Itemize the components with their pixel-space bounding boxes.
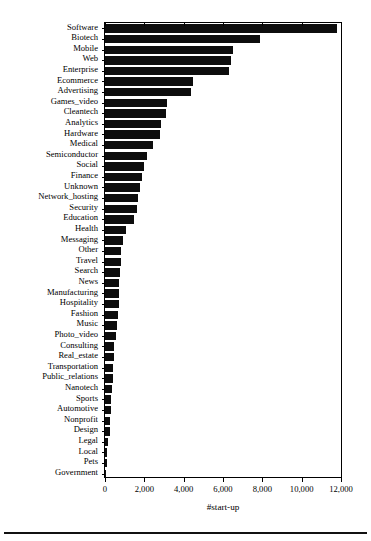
- bar-row: [105, 55, 341, 66]
- bar: [105, 35, 260, 43]
- bar-chart-figure: SoftwareBiotechMobileWebEnterpriseEcomme…: [0, 0, 371, 541]
- bar-row: [105, 171, 341, 182]
- bar-row: [105, 214, 341, 225]
- y-axis-label: Local: [0, 447, 98, 456]
- bar-row: [105, 150, 341, 161]
- y-axis-label: Nanotech: [0, 383, 98, 392]
- bar: [105, 321, 117, 329]
- y-axis-tick: [102, 399, 105, 400]
- y-axis-tick: [102, 442, 105, 443]
- bar-row: [105, 362, 341, 373]
- y-axis-label: Medical: [0, 139, 98, 148]
- y-axis-label: Pets: [0, 457, 98, 466]
- bar: [105, 183, 140, 191]
- bar: [105, 247, 121, 255]
- y-axis-tick: [102, 145, 105, 146]
- y-axis-label: Nonprofit: [0, 415, 98, 424]
- y-axis-label: Semiconductor: [0, 150, 98, 159]
- bar: [105, 236, 123, 244]
- y-axis-tick: [102, 177, 105, 178]
- bar: [105, 120, 161, 128]
- x-axis-tick: [223, 478, 224, 482]
- bar-row: [105, 384, 341, 395]
- y-axis-label: Transportation: [0, 362, 98, 371]
- x-axis-top-tick: [223, 22, 224, 26]
- bar-row: [105, 65, 341, 76]
- bar: [105, 258, 121, 266]
- y-axis-label: Advertising: [0, 86, 98, 95]
- y-axis-tick: [102, 389, 105, 390]
- x-axis-tick: [341, 478, 342, 482]
- y-axis-tick: [102, 315, 105, 316]
- y-axis-label: Other: [0, 245, 98, 254]
- y-axis-tick: [102, 156, 105, 157]
- y-axis-label: Real_estate: [0, 351, 98, 360]
- bar-row: [105, 97, 341, 108]
- bar: [105, 46, 233, 54]
- bar-row: [105, 182, 341, 193]
- bar-row: [105, 193, 341, 204]
- bar: [105, 88, 191, 96]
- bar: [105, 417, 110, 425]
- bar-row: [105, 373, 341, 384]
- bar: [105, 162, 144, 170]
- bar-row: [105, 108, 341, 119]
- y-axis-label: Music: [0, 319, 98, 328]
- y-axis-label: Network_hosting: [0, 192, 98, 201]
- y-axis-label: Cleantech: [0, 107, 98, 116]
- x-axis-tick-label: 6,000: [213, 484, 232, 494]
- bar: [105, 141, 153, 149]
- y-axis-tick: [102, 293, 105, 294]
- bar-row: [105, 426, 341, 437]
- plot-area: [104, 22, 342, 478]
- y-axis-label: Games_video: [0, 97, 98, 106]
- y-axis-label: Hospitality: [0, 298, 98, 307]
- y-axis-tick: [102, 124, 105, 125]
- y-axis-tick: [102, 421, 105, 422]
- bar: [105, 130, 160, 138]
- bar: [105, 438, 108, 446]
- y-axis-label: Travel: [0, 256, 98, 265]
- y-axis-tick: [102, 92, 105, 93]
- y-axis-tick: [102, 209, 105, 210]
- x-axis-tick-label: 10,000: [290, 484, 314, 494]
- y-axis-tick: [102, 251, 105, 252]
- y-axis-label: Legal: [0, 436, 98, 445]
- x-axis-top-tick: [105, 22, 106, 26]
- bar-row: [105, 447, 341, 458]
- bar: [105, 332, 116, 340]
- bar-row: [105, 129, 341, 140]
- bar: [105, 289, 119, 297]
- bar: [105, 342, 114, 350]
- y-axis-tick: [102, 28, 105, 29]
- y-axis-label: Public_relations: [0, 372, 98, 381]
- bar-row: [105, 415, 341, 426]
- y-axis-tick: [102, 410, 105, 411]
- y-axis-tick: [102, 113, 105, 114]
- x-axis-top-tick: [302, 22, 303, 26]
- bar: [105, 279, 119, 287]
- y-axis-tick: [102, 166, 105, 167]
- bar: [105, 99, 167, 107]
- y-axis-label: Sports: [0, 394, 98, 403]
- bar: [105, 395, 111, 403]
- bar-row: [105, 437, 341, 448]
- bar: [105, 268, 120, 276]
- y-axis-label: Government: [0, 468, 98, 477]
- y-axis-tick: [102, 187, 105, 188]
- bar: [105, 459, 107, 467]
- y-axis-tick: [102, 230, 105, 231]
- x-axis-top-ticks: [104, 22, 342, 27]
- bar-row: [105, 76, 341, 87]
- x-axis-tick-label: 4,000: [174, 484, 193, 494]
- y-axis-tick: [102, 71, 105, 72]
- bar-row: [105, 44, 341, 55]
- bar-row: [105, 405, 341, 416]
- bar: [105, 67, 229, 75]
- bar-row: [105, 235, 341, 246]
- y-axis-tick: [102, 474, 105, 475]
- bar-row: [105, 118, 341, 129]
- bar: [105, 300, 119, 308]
- x-axis-tick-label: 12,000: [329, 484, 353, 494]
- y-axis-label: Finance: [0, 171, 98, 180]
